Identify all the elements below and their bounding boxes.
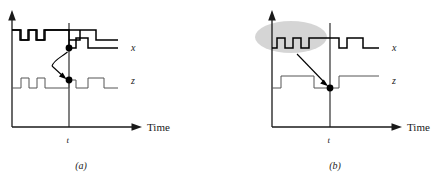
waveform-z-a [12, 78, 118, 88]
y-axis-a [8, 10, 16, 127]
signal-label-z-a: z [130, 75, 135, 86]
up-arrow-icon [268, 10, 276, 21]
signal-label-x-a: x [130, 42, 136, 53]
time-tick-label-b: t [328, 135, 331, 145]
signal-label-x-b: x [391, 42, 397, 53]
panel-caption-b: (b) [329, 160, 341, 172]
mapping-arrow-a [52, 52, 68, 79]
waveform-x-a [12, 30, 118, 40]
mapping-arrow-b [297, 54, 328, 86]
axis-label-time-b: Time [407, 121, 430, 133]
panel-b-canvas: x z t Time (b) [219, 0, 438, 181]
signal-label-z-b: z [391, 75, 396, 86]
sample-dot-x-a [66, 45, 73, 52]
up-arrow-icon [8, 10, 16, 21]
timing-diagram-figure: x z t Time (a) [0, 0, 438, 181]
panel-a-canvas: x z t Time (a) [0, 0, 219, 181]
panel-caption-a: (a) [75, 160, 87, 172]
sample-dot-z-a [66, 77, 73, 84]
waveform-z-b [272, 76, 379, 88]
x-axis-a [12, 123, 142, 131]
time-tick-label-a: t [67, 135, 70, 145]
arrow-head-icon [320, 79, 328, 86]
right-arrow-icon [132, 123, 143, 131]
axis-label-time-a: Time [147, 121, 170, 133]
panel-b: x z t Time (b) [219, 0, 438, 181]
panel-a: x z t Time (a) [0, 0, 219, 181]
right-arrow-icon [392, 123, 403, 131]
x-axis-b [272, 123, 402, 131]
